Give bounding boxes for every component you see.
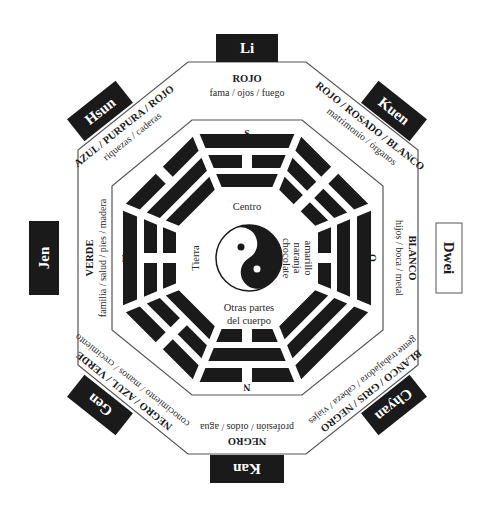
sector-dwei-associations: hijos / boca / metal	[394, 220, 405, 296]
yin-line-segment	[252, 155, 286, 168]
center-label-chocolate: chocolate	[281, 238, 292, 279]
name-box-kan: Kan	[210, 455, 284, 483]
sector-kan-associations: profesión / oídos / agua	[200, 422, 294, 433]
yin-line-segment	[208, 155, 242, 168]
name-box-jen: Jen	[29, 221, 59, 295]
center-label-otras-1: Otras partes	[224, 302, 274, 313]
direction-s: S	[244, 128, 250, 139]
name-kan: Kan	[233, 461, 261, 477]
yin-line-segment	[144, 263, 157, 297]
name-box-li: Li	[216, 34, 278, 62]
sector-dwei-colors: BLANCO	[407, 236, 418, 281]
center-label-centro: Centro	[233, 201, 262, 212]
name-dwei: Dwei	[441, 242, 457, 275]
direction-e: E	[122, 253, 129, 264]
yang-line	[208, 348, 285, 361]
center-label-otras-2: del cuerpo	[227, 315, 271, 326]
bagua-svg: Centro Otras partes del cuerpo Tierra am…	[0, 0, 494, 518]
name-jen: Jen	[36, 246, 52, 269]
sector-kan-colors: NEGRO	[228, 436, 267, 447]
sector-li-colors: ROJO	[232, 73, 261, 84]
center-label-tierra: Tierra	[190, 245, 201, 271]
yin-line-segment	[144, 219, 157, 253]
sector-li-associations: fama / ojos / fuego	[210, 87, 285, 98]
sector-jen-colors: VERDE	[84, 240, 95, 277]
center-label-amarillo: amarillo	[303, 241, 314, 276]
bagua-diagram: Centro Otras partes del cuerpo Tierra am…	[0, 0, 494, 518]
name-box-dwei: Dwei	[436, 223, 462, 293]
yin-line-segment	[252, 368, 294, 382]
name-li: Li	[240, 40, 254, 56]
direction-n: N	[243, 382, 251, 393]
yang-line	[337, 219, 350, 296]
yang-line	[216, 174, 278, 187]
direction-o: O	[367, 254, 378, 262]
sector-jen-associations: familia / salud / pies / madera	[97, 198, 108, 317]
yin-line-segment	[200, 368, 242, 382]
center-label-naranja: naranja	[292, 243, 303, 274]
